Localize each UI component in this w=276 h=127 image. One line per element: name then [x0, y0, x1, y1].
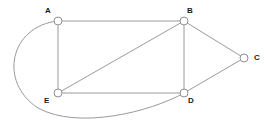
- graph-diagram: ABCDE: [0, 0, 276, 127]
- graph-edge-c-d: [184, 58, 244, 93]
- node-label-d: D: [188, 97, 194, 105]
- node-label-e: E: [44, 97, 49, 105]
- graph-node-d[interactable]: [180, 89, 188, 97]
- nodes-layer: [54, 17, 248, 97]
- graph-canvas: [0, 0, 276, 127]
- graph-node-b[interactable]: [180, 17, 188, 25]
- graph-node-e[interactable]: [54, 89, 62, 97]
- node-label-a: A: [45, 7, 51, 15]
- graph-node-c[interactable]: [240, 54, 248, 62]
- node-label-b: B: [187, 7, 193, 15]
- graph-edge-b-c: [184, 21, 244, 58]
- node-label-c: C: [254, 54, 260, 62]
- graph-edge-b-e: [58, 21, 184, 93]
- graph-node-a[interactable]: [54, 17, 62, 25]
